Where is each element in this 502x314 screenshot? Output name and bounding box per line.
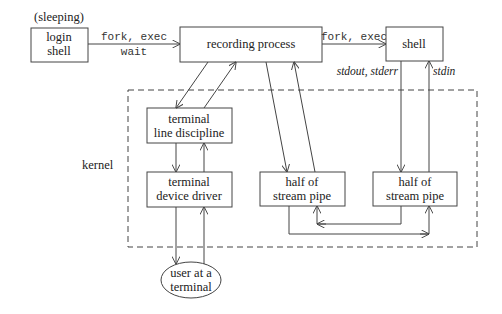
login-shell-note: (sleeping) (34, 10, 84, 24)
edge-pipe-right-to-pipe-left (317, 206, 401, 224)
user-node: user at a terminal (161, 262, 221, 298)
device-driver-line2: device driver (156, 189, 222, 203)
shell-node: shell (386, 27, 443, 61)
pipe-left-line1: half of (286, 175, 320, 189)
pipe-right-line1: half of (399, 175, 433, 189)
pipe-left-line2: stream pipe (273, 189, 331, 203)
edge-recording-to-pipe-left (266, 62, 287, 172)
diagram-canvas: kernel (sleeping) login shell fork, exec… (0, 0, 502, 314)
recording-process-node: recording process (180, 27, 322, 62)
login-shell-line2: shell (47, 44, 71, 58)
edge-recording-to-discipline (176, 62, 208, 108)
pipe-right-node: half of stream pipe (373, 172, 457, 206)
edge-pipe-left-to-pipe-right (289, 206, 429, 234)
login-shell-line1: login (46, 30, 72, 44)
edge-pipe-left-to-recording (294, 62, 315, 172)
edge-label-fork-exec-1: fork, exec (101, 31, 167, 43)
user-line1: user at a (170, 266, 212, 280)
pipe-left-node: half of stream pipe (260, 172, 345, 206)
edge-label-wait: wait (121, 46, 147, 58)
shell-label: shell (402, 37, 426, 51)
device-driver-node: terminal device driver (147, 172, 232, 207)
line-discipline-line1: terminal (168, 112, 210, 126)
pipe-right-line2: stream pipe (386, 189, 444, 203)
recording-process-label: recording process (207, 37, 296, 51)
line-discipline-node: terminal line discipline (147, 108, 232, 143)
user-line2: terminal (170, 280, 212, 294)
login-shell-node: login shell (31, 28, 88, 62)
line-discipline-line2: line discipline (154, 126, 225, 140)
edge-label-stdout-stderr: stdout, stderr (337, 65, 399, 78)
kernel-label: kernel (82, 158, 114, 172)
edge-label-fork-exec-2: fork, exec (321, 31, 387, 43)
edge-label-stdin: stdin (433, 65, 456, 77)
edge-discipline-to-recording (204, 62, 236, 108)
device-driver-line1: terminal (168, 175, 210, 189)
